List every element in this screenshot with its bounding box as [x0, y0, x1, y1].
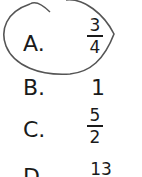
option-c-label: C. — [23, 119, 45, 141]
denominator: 2 — [87, 128, 103, 146]
denominator: 4 — [87, 38, 103, 56]
option-d-label: D. — [23, 166, 47, 177]
hand-drawn-circle-annotation — [0, 0, 142, 177]
numerator: 5 — [87, 106, 103, 124]
option-a-label: A. — [23, 33, 45, 55]
numerator: 3 — [87, 16, 103, 34]
numerator: 13 — [88, 160, 114, 177]
option-c-fraction: 5 2 — [87, 106, 103, 146]
option-b-label: B. — [23, 77, 45, 99]
option-d-fraction: 13 — [88, 160, 114, 177]
option-a-fraction: 3 4 — [87, 16, 103, 56]
option-b-value: 1 — [91, 77, 105, 99]
